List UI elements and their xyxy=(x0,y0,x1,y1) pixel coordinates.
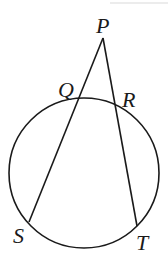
secant-diagram: P Q R S T xyxy=(0,0,168,262)
point-label-q: Q xyxy=(58,77,74,102)
point-label-p: P xyxy=(95,13,109,38)
point-label-t: T xyxy=(136,230,150,255)
secant-line-pt xyxy=(103,38,137,226)
secant-line-ps xyxy=(29,38,103,222)
point-label-s: S xyxy=(13,223,24,248)
diagram-svg: P Q R S T xyxy=(0,0,168,262)
point-label-r: R xyxy=(121,87,136,112)
